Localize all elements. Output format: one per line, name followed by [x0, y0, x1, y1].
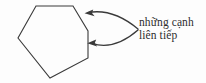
- arrow-lower-head: [87, 39, 97, 46]
- annotation-label-line-1: những cạnh: [139, 16, 206, 29]
- arrow-lower-curve: [92, 30, 138, 45]
- annotation-label: những cạnh liên tiếp: [139, 16, 206, 42]
- arrow-upper-curve: [88, 12, 138, 29]
- arrow-upper: [85, 10, 139, 29]
- hexagon-shape: [18, 6, 88, 78]
- arrow-lower: [87, 30, 138, 46]
- annotation-label-line-2: liên tiếp: [139, 29, 206, 42]
- geometry-figure: những cạnh liên tiếp: [0, 0, 206, 83]
- arrow-upper-head: [85, 10, 95, 17]
